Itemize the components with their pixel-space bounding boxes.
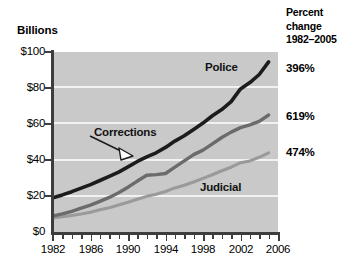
x-tick-1983 <box>62 234 64 239</box>
x-tick-label-2006: 2006 <box>258 243 298 255</box>
y-tick-label-100: $100 <box>3 45 45 57</box>
y-tick-label-0: $0 <box>3 225 45 237</box>
percent-change-police: 396% <box>286 62 315 74</box>
x-tick-label-2002: 2002 <box>221 243 261 255</box>
x-tick-1994 <box>166 234 168 241</box>
percent-change-header: Percent change 1982–2005 <box>286 6 337 47</box>
y-tick-mark-100 <box>45 51 52 53</box>
y-tick-label-20: $20 <box>3 189 45 201</box>
x-tick-2001 <box>231 234 233 239</box>
series-label-police: Police <box>205 61 238 73</box>
series-label-judicial: Judicial <box>200 181 241 193</box>
x-tick-label-1986: 1986 <box>71 243 111 255</box>
x-tick-1986 <box>91 234 93 241</box>
y-axis-line <box>51 50 54 234</box>
x-tick-1987 <box>100 234 102 239</box>
percent-change-header-line2: change <box>286 20 337 34</box>
percent-change-header-line1: Percent <box>286 6 337 20</box>
x-tick-1989 <box>119 234 121 239</box>
y-tick-label-80: $80 <box>3 81 45 93</box>
x-tick-2005 <box>269 234 271 239</box>
x-tick-2000 <box>222 234 224 239</box>
x-tick-1996 <box>184 234 186 239</box>
x-tick-label-1998: 1998 <box>183 243 223 255</box>
y-tick-label-60: $60 <box>3 117 45 129</box>
x-tick-2006 <box>278 234 280 241</box>
x-tick-2004 <box>259 234 261 239</box>
x-tick-label-1982: 1982 <box>33 243 73 255</box>
percent-change-judicial: 474% <box>286 146 315 158</box>
y-tick-label-40: $40 <box>3 153 45 165</box>
x-tick-1988 <box>109 234 111 239</box>
percent-change-corrections: 619% <box>286 110 315 122</box>
x-tick-label-1990: 1990 <box>108 243 148 255</box>
chart-figure: Billions Percent change 1982–2005 Police… <box>0 0 357 269</box>
corrections-arrow-icon <box>119 148 133 160</box>
x-tick-1997 <box>194 234 196 239</box>
plot-area <box>53 52 278 232</box>
y-tick-mark-40 <box>45 159 52 161</box>
percent-change-header-line3: 1982–2005 <box>286 33 337 47</box>
x-tick-1990 <box>128 234 130 241</box>
x-tick-1999 <box>212 234 214 239</box>
chart-series-svg <box>53 52 278 232</box>
x-tick-2002 <box>241 234 243 241</box>
x-tick-1995 <box>175 234 177 239</box>
x-tick-1991 <box>137 234 139 239</box>
x-tick-label-1994: 1994 <box>146 243 186 255</box>
x-tick-1985 <box>81 234 83 239</box>
x-tick-1984 <box>72 234 74 239</box>
y-tick-mark-60 <box>45 123 52 125</box>
y-tick-mark-20 <box>45 195 52 197</box>
x-tick-2003 <box>250 234 252 239</box>
x-tick-1998 <box>203 234 205 241</box>
y-tick-mark-80 <box>45 87 52 89</box>
y-axis-title: Billions <box>17 24 58 37</box>
x-tick-1982 <box>52 234 54 241</box>
x-tick-1992 <box>147 234 149 239</box>
series-label-corrections: Corrections <box>94 126 156 138</box>
x-tick-1993 <box>156 234 158 239</box>
